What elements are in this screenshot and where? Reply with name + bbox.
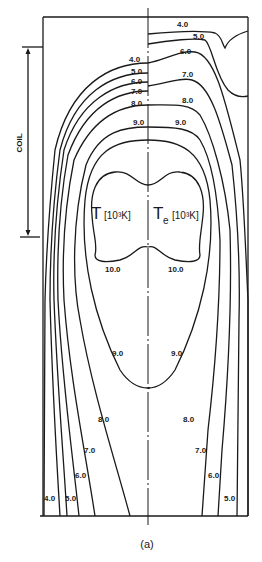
label-right-5: 5.0: [193, 32, 205, 41]
label-left-8-lower: 8.0: [98, 415, 110, 424]
label-left-6: 6.0: [131, 77, 143, 86]
label-left-9: 9.0: [133, 118, 145, 127]
right-contour-labels: 4.0 5.0 6.0 7.0 8.0 9.0 10.0 9.0 8.0 7.0…: [168, 20, 236, 503]
label-left-8: 8.0: [131, 99, 143, 108]
label-right-7: 7.0: [182, 70, 194, 79]
right-panel-title: T e [10³K]: [153, 204, 199, 226]
arrow-down-icon: [26, 230, 31, 236]
left-symbol: T: [91, 204, 101, 223]
torch-frame: [40, 17, 248, 516]
label-right-9: 9.0: [175, 118, 187, 127]
label-right-7-lower: 7.0: [195, 446, 207, 455]
label-right-9-lower: 9.0: [171, 349, 183, 358]
label-right-10: 10.0: [168, 265, 184, 274]
label-right-6-lower: 6.0: [208, 471, 220, 480]
label-left-5: 5.0: [131, 67, 143, 76]
label-left-6-lower: 6.0: [75, 471, 87, 480]
label-left-4: 4.0: [129, 55, 141, 64]
temperature-contour-diagram: COIL 4.0 5.0 6.0 7.0 8.0 9.0 10.0 9.0 8.…: [0, 0, 262, 562]
figure-caption: (a): [140, 538, 153, 550]
left-unit: [10³K]: [104, 210, 131, 221]
left-panel-title: T [10³K]: [91, 204, 131, 223]
left-contour-labels: 4.0 5.0 6.0 7.0 8.0 9.0 10.0 9.0 8.0 7.0…: [44, 55, 145, 503]
label-left-4-lower: 4.0: [44, 494, 56, 503]
label-left-7-lower: 7.0: [84, 446, 96, 455]
label-right-5-lower: 5.0: [224, 494, 236, 503]
label-left-10: 10.0: [105, 265, 121, 274]
right-symbol: T: [153, 204, 163, 223]
label-right-8: 8.0: [182, 96, 194, 105]
right-unit: [10³K]: [172, 210, 199, 221]
label-left-7: 7.0: [131, 87, 143, 96]
coil-marker: COIL: [15, 47, 43, 237]
coil-label: COIL: [15, 133, 24, 152]
label-left-5-lower: 5.0: [65, 494, 77, 503]
right-contours: [148, 31, 248, 516]
label-right-8-lower: 8.0: [183, 415, 195, 424]
right-subscript: e: [163, 215, 169, 226]
left-contours: [44, 63, 148, 516]
arrow-up-icon: [26, 48, 31, 54]
label-right-4: 4.0: [177, 20, 189, 29]
label-left-9-lower: 9.0: [112, 349, 124, 358]
label-right-6: 6.0: [180, 47, 192, 56]
